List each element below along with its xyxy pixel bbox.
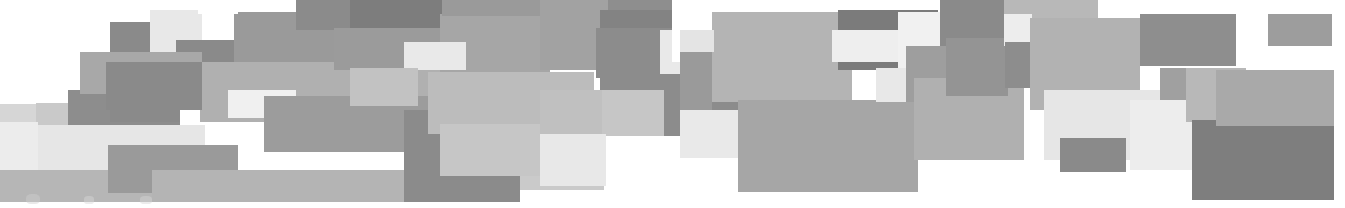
mosaic-tile: [0, 104, 36, 122]
mosaic-tile: [540, 134, 606, 186]
scan-smudge: [140, 196, 152, 204]
mosaic-tile: [1060, 138, 1126, 172]
mosaic-tile: [0, 0, 36, 104]
mosaic-tile: [0, 122, 38, 170]
mosaic-tile: [1216, 70, 1334, 126]
scan-smudge: [84, 196, 94, 204]
mosaic-tile: [106, 62, 202, 110]
mosaic-tile: [712, 12, 852, 102]
mosaic-tile: [350, 0, 446, 28]
mosaic-tile: [198, 0, 238, 14]
mosaic-tile: [832, 30, 900, 62]
mosaic-tile: [738, 100, 918, 192]
mosaic-tile: [1140, 14, 1236, 66]
mosaic-tile: [596, 90, 664, 136]
mosaic-tile: [540, 90, 602, 136]
mosaic-tile: [350, 68, 418, 106]
mosaic-tile: [946, 38, 1008, 96]
mosaic-tile: [1005, 42, 1033, 88]
mosaic-tile: [404, 42, 466, 70]
mosaic-tile: [1192, 120, 1334, 200]
mosaic-canvas: [0, 0, 1345, 208]
mosaic-tile: [680, 30, 714, 52]
scan-smudge: [26, 194, 40, 204]
mosaic-tile: [1268, 14, 1332, 46]
mosaic-tile: [1100, 0, 1140, 14]
mosaic-tile: [442, 0, 542, 16]
